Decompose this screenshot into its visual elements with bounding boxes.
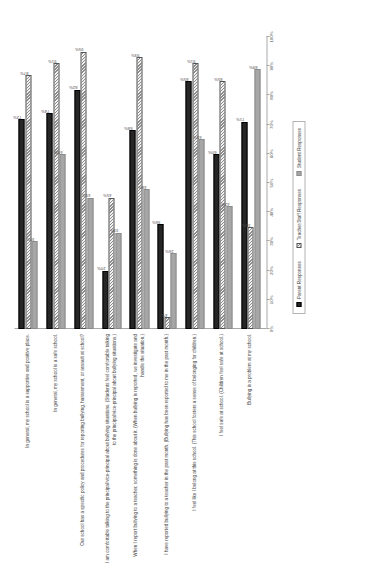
bar xyxy=(108,198,114,329)
bar-value-label: 4% xyxy=(161,313,167,318)
bar-group: 60%85%42% xyxy=(213,37,232,329)
tick-label: 40% xyxy=(268,208,273,217)
bar-value-label: 33% xyxy=(109,228,118,233)
bar-row: 82% xyxy=(74,37,80,329)
bar-row: 91% xyxy=(192,37,198,329)
category-label-text: I feel like I belong at this school. (Th… xyxy=(191,334,198,566)
bar xyxy=(87,198,93,329)
bar xyxy=(198,139,204,329)
bar-row: 45% xyxy=(108,37,114,329)
bar xyxy=(53,63,59,329)
tick-label: 70% xyxy=(268,120,273,129)
bar-group: 85%91%65% xyxy=(185,37,204,329)
bar-row: 36% xyxy=(157,37,163,329)
bar-row: 85% xyxy=(185,37,191,329)
bar xyxy=(136,57,142,329)
category-label-text: I have reported bullying to a teacher in… xyxy=(163,334,170,566)
bar-row: 89% xyxy=(254,37,260,329)
bar xyxy=(247,227,253,329)
bar-value-label: 85% xyxy=(179,76,188,81)
bar-value-label: 35% xyxy=(242,222,251,227)
bar-group: 72%87%30% xyxy=(18,37,37,329)
tick-label: 50% xyxy=(268,179,273,188)
bar-value-label: 30% xyxy=(26,237,35,242)
bar-row: 65% xyxy=(198,37,204,329)
tick-label: 60% xyxy=(268,149,273,158)
category-label-text: I feel safe at school. (Children feel sa… xyxy=(219,334,226,566)
category-label-text: In general, my school is a supportive an… xyxy=(25,334,32,566)
bar-row: 71% xyxy=(241,37,247,329)
bar xyxy=(226,206,232,329)
bar-row: 74% xyxy=(46,37,52,329)
bar-value-label: 42% xyxy=(220,202,229,207)
bar-value-label: 36% xyxy=(152,219,161,224)
bar-group: 68%93%48% xyxy=(129,37,148,329)
category-label-text: I am comfortable talking to the principa… xyxy=(105,334,118,566)
bar xyxy=(129,130,135,329)
legend-label: Parent Responses xyxy=(296,261,301,299)
bar xyxy=(59,154,65,329)
bar-row: 60% xyxy=(59,37,65,329)
bar-value-label: 60% xyxy=(54,149,63,154)
bar xyxy=(143,189,149,329)
bar-row: 91% xyxy=(53,37,59,329)
category-label-text: In general, my school is a safe school. xyxy=(52,334,59,566)
tick-label: 30% xyxy=(268,237,273,246)
legend-label: Teacher/Staff Responses xyxy=(296,189,301,240)
bar-value-label: 68% xyxy=(124,126,133,131)
bar xyxy=(164,317,170,329)
legend-item[interactable]: Teacher/Staff Responses xyxy=(296,189,301,248)
bar xyxy=(213,154,219,329)
bar-value-label: 91% xyxy=(47,59,56,64)
legend-item[interactable]: Parent Responses xyxy=(296,261,301,307)
tick-label: 80% xyxy=(268,91,273,100)
bar-value-label: 85% xyxy=(214,76,223,81)
rotated-figure-container: 72%87%30%74%91%60%82%95%45%20%45%33%68%9… xyxy=(0,0,379,572)
bar-value-label: 91% xyxy=(186,59,195,64)
bar xyxy=(46,113,52,329)
bar-value-label: 20% xyxy=(96,266,105,271)
tick-label: 20% xyxy=(268,266,273,275)
tick-label: 100% xyxy=(268,31,273,42)
bar-value-label: 45% xyxy=(82,193,91,198)
bar-row: 68% xyxy=(129,37,135,329)
legend-item[interactable]: Student Responses xyxy=(296,128,301,176)
bar-value-label: 45% xyxy=(103,193,112,198)
bar-value-label: 74% xyxy=(41,108,50,113)
category-label-text: Our school has a specific policy and pro… xyxy=(80,334,87,566)
plot-area: 72%87%30%74%91%60%82%95%45%20%45%33%68%9… xyxy=(14,37,264,329)
bar-value-label: 65% xyxy=(193,135,202,140)
bar-value-label: 89% xyxy=(248,64,257,69)
bar xyxy=(25,75,31,329)
bar-row: 30% xyxy=(31,37,37,329)
bar-value-label: 26% xyxy=(165,248,174,253)
bar xyxy=(170,253,176,329)
bar-value-label: 93% xyxy=(130,53,139,58)
bar xyxy=(254,69,260,329)
tick-label: 0% xyxy=(268,326,273,332)
bar-row: 20% xyxy=(102,37,108,329)
bar-row: 33% xyxy=(115,37,121,329)
bar xyxy=(192,63,198,329)
bar-value-label: 71% xyxy=(235,117,244,122)
bar-value-label: 48% xyxy=(137,184,146,189)
bar-row: 48% xyxy=(143,37,149,329)
bar xyxy=(115,233,121,329)
bar-group: 20%45%33% xyxy=(102,37,121,329)
bar-group: 71%35%89% xyxy=(241,37,260,329)
legend-label: Student Responses xyxy=(296,128,301,168)
bar-value-label: 60% xyxy=(207,149,216,154)
bar-row: 35% xyxy=(247,37,253,329)
bar-row: 26% xyxy=(170,37,176,329)
bar-row: 4% xyxy=(164,37,170,329)
category-label-text: Bullying is a problem at my school. xyxy=(247,334,254,566)
bar-value-label: 95% xyxy=(75,47,84,52)
bar-value-label: 72% xyxy=(13,114,22,119)
bar-row: 42% xyxy=(226,37,232,329)
bar xyxy=(185,81,191,329)
bar xyxy=(80,52,86,329)
bar-group: 74%91%60% xyxy=(46,37,65,329)
bar-value-label: 87% xyxy=(19,70,28,75)
bar xyxy=(102,271,108,329)
bar xyxy=(18,119,24,329)
